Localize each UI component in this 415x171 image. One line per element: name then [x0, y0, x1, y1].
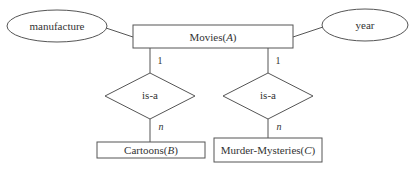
entity-cartoons: Cartoons(B): [97, 142, 205, 158]
attribute-year: year: [322, 9, 408, 41]
cardinality-left-bottom: n: [159, 121, 164, 132]
manufacture-connector: [106, 28, 133, 37]
relationship-isa-right-label: is-a: [260, 89, 276, 101]
relationship-isa-left-label: is-a: [142, 89, 158, 101]
er-diagram: manufacture year Movies(A) 1 1 is-a is-a…: [0, 0, 415, 171]
entity-murder-mysteries: Murder-Mysteries(C): [214, 138, 322, 162]
attribute-year-label: year: [356, 19, 375, 31]
attribute-manufacture: manufacture: [7, 10, 107, 42]
entity-movies: Movies(A): [133, 25, 293, 48]
cardinality-right-bottom: n: [277, 121, 282, 132]
relationship-isa-right: is-a: [223, 73, 313, 119]
relationship-isa-left: is-a: [105, 73, 195, 119]
entity-murder-mysteries-label: Murder-Mysteries(C): [221, 144, 316, 157]
attribute-manufacture-label: manufacture: [30, 20, 85, 32]
cardinality-left-top: 1: [158, 55, 163, 66]
cardinality-right-top: 1: [276, 55, 281, 66]
entity-cartoons-label: Cartoons(B): [124, 144, 178, 157]
entity-movies-label: Movies(A): [189, 31, 236, 44]
year-connector: [293, 27, 323, 37]
